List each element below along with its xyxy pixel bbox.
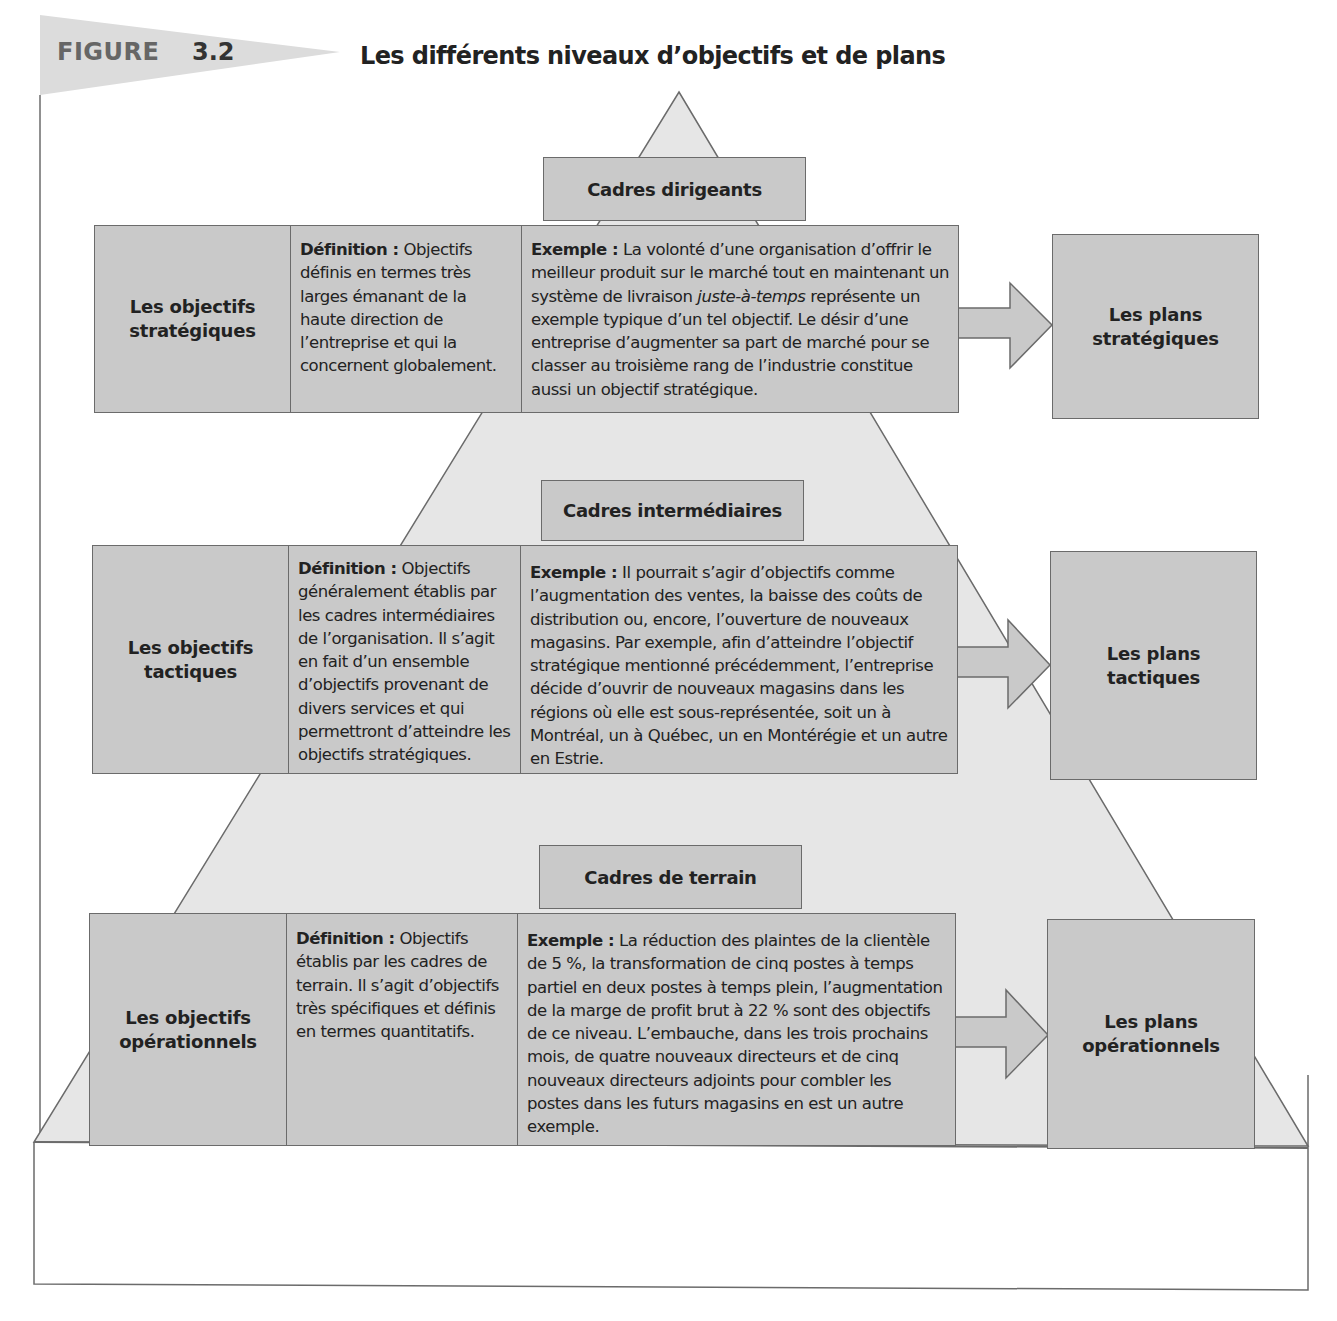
plan-label-line2: stratégiques [1092, 327, 1218, 351]
objective-label-line1: Les objectifs [129, 295, 255, 319]
objective-label-line1: Les objectifs [128, 636, 254, 660]
objective-row-strategic: Les objectifsstratégiques Définition : O… [94, 225, 959, 413]
plan-box-strategic: Les plansstratégiques [1052, 234, 1259, 419]
plan-box-tactical: Les planstactiques [1050, 551, 1257, 780]
manager-level-label: Cadres dirigeants [543, 157, 806, 221]
example-text: La réduction des plaintes de la clientèl… [527, 931, 942, 1136]
objective-label-line1: Les objectifs [119, 1006, 257, 1030]
objective-row-operational: Les objectifsopérationnels Définition : … [89, 913, 956, 1146]
objective-label: Les objectifsstratégiques [95, 226, 291, 412]
figure-label: FIGURE [57, 38, 159, 66]
plan-label-line1: Les plans [1092, 303, 1218, 327]
definition-label: Définition : [300, 240, 399, 259]
definition-text: Objectifs généralement établis par les c… [298, 559, 510, 764]
objective-label-line2: tactiques [128, 660, 254, 684]
example-label: Exemple : [527, 931, 614, 950]
definition-label: Définition : [296, 929, 395, 948]
example-label: Exemple : [530, 563, 617, 582]
objective-label: Les objectifsopérationnels [90, 914, 287, 1145]
example-cell: Exemple : La volonté d’une organisation … [522, 226, 958, 412]
figure-title: Les différents niveaux d’objectifs et de… [360, 42, 945, 70]
example-cell: Exemple : La réduction des plaintes de l… [518, 914, 954, 1145]
definition-cell: Définition : Objectifs généralement étab… [289, 546, 521, 773]
example-label: Exemple : [531, 240, 618, 259]
definition-cell: Définition : Objectifs définis en termes… [291, 226, 522, 412]
figure-number: 3.2 [192, 38, 235, 66]
objective-label: Les objectifstactiques [93, 546, 289, 773]
arrow-right-icon [958, 283, 1052, 368]
plan-box-operational: Les plansopérationnels [1047, 919, 1255, 1149]
definition-text: Objectifs définis en termes très larges … [300, 240, 497, 375]
example-cell: Exemple : Il pourrait s’agir d’objectifs… [521, 546, 956, 773]
manager-level-label: Cadres de terrain [539, 845, 802, 909]
plan-label-line2: opérationnels [1082, 1034, 1220, 1058]
definition-label: Définition : [298, 559, 397, 578]
objective-label-line2: stratégiques [129, 319, 255, 343]
plan-label-line1: Les plans [1107, 642, 1201, 666]
objective-label-line2: opérationnels [119, 1030, 257, 1054]
objective-row-tactical: Les objectifstactiques Définition : Obje… [92, 545, 958, 774]
example-text-italic: juste-à-temps [697, 287, 805, 306]
example-text: Il pourrait s’agir d’objectifs comme l’a… [530, 563, 947, 768]
definition-cell: Définition : Objectifs établis par les c… [287, 914, 518, 1145]
plan-label-line2: tactiques [1107, 666, 1201, 690]
plan-label-line1: Les plans [1082, 1010, 1220, 1034]
manager-level-label: Cadres intermédiaires [541, 480, 804, 541]
